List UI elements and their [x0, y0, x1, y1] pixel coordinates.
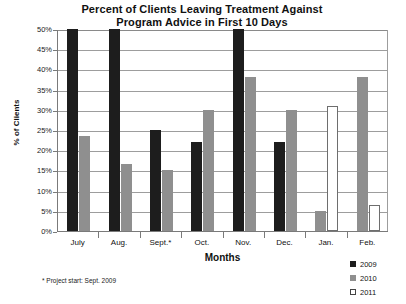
y-tick-label: 50% — [24, 26, 52, 34]
y-tick-label: 0% — [24, 228, 52, 236]
bar-2010-sept[interactable] — [162, 170, 173, 231]
bar-2009-aug[interactable] — [109, 29, 120, 231]
bar-group — [141, 30, 182, 231]
bar-group — [224, 30, 265, 231]
bar-group — [348, 30, 389, 231]
y-tick-label: 20% — [24, 147, 52, 155]
y-tick-label: 15% — [24, 167, 52, 175]
bar-2010-dec[interactable] — [286, 110, 297, 231]
bar-2010-oct[interactable] — [203, 110, 214, 231]
chart-title-line-2: Program Advice in First 10 Days — [42, 16, 362, 29]
y-tick-label: 5% — [24, 208, 52, 216]
bar-2011-jan[interactable] — [327, 106, 338, 231]
y-tick-label: 25% — [24, 127, 52, 135]
bar-2010-aug[interactable] — [121, 164, 132, 231]
y-tick-label: 30% — [24, 107, 52, 115]
bar-chart: Percent of Clients Leaving Treatment Aga… — [0, 0, 406, 304]
bar-group — [58, 30, 99, 231]
bar-2009-oct[interactable] — [191, 142, 202, 231]
bar-2009-july[interactable] — [67, 29, 78, 231]
y-axis-title: % of Clients — [12, 88, 21, 158]
legend-item-2009[interactable]: 2009 — [350, 257, 406, 271]
y-tick-mark — [53, 232, 57, 233]
bar-2010-jan[interactable] — [315, 211, 326, 231]
legend-item-2010[interactable]: 2010 — [350, 271, 406, 285]
bar-group — [306, 30, 347, 231]
plot-area — [57, 30, 388, 232]
legend-label: 2010 — [360, 274, 377, 283]
legend-item-2011[interactable]: 2011 — [350, 285, 406, 299]
y-tick-label: 35% — [24, 87, 52, 95]
chart-title: Percent of Clients Leaving Treatment Aga… — [42, 3, 362, 29]
footnote: * Project start: Sept. 2009 — [42, 277, 116, 284]
black-square-icon — [350, 261, 356, 267]
bar-2010-july[interactable] — [79, 136, 90, 231]
x-axis-title: Months — [57, 252, 388, 263]
legend-label: 2011 — [360, 288, 376, 297]
bar-group — [265, 30, 306, 231]
bar-2009-dec[interactable] — [274, 142, 285, 231]
bar-2009-sept[interactable] — [150, 130, 161, 231]
y-tick-label: 45% — [24, 46, 52, 54]
chart-legend: 200920102011 — [350, 257, 406, 299]
bar-2011-feb[interactable] — [369, 205, 380, 231]
x-axis-label-feb: Feb. — [339, 238, 395, 247]
legend-label: 2009 — [360, 260, 377, 269]
gray-square-icon — [350, 275, 356, 281]
bar-2009-nov[interactable] — [233, 29, 244, 231]
y-tick-label: 10% — [24, 188, 52, 196]
bar-group — [182, 30, 223, 231]
chart-title-line-1: Percent of Clients Leaving Treatment Aga… — [42, 3, 362, 16]
y-tick-label: 40% — [24, 66, 52, 74]
bar-2010-nov[interactable] — [245, 77, 256, 231]
white-square-icon — [350, 289, 356, 295]
bar-group — [99, 30, 140, 231]
bar-2010-feb[interactable] — [357, 77, 368, 231]
